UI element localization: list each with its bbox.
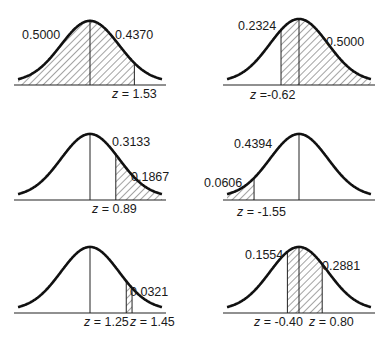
z-value-label: z = 0.80 — [308, 315, 354, 329]
normal-curve-panel-1: 0.50000.4370z = 1.53 — [14, 21, 166, 101]
z-value-label: z = -0.40 — [253, 315, 303, 329]
area-value-label: 0.3133 — [112, 135, 150, 149]
area-value-label: 0.4394 — [234, 137, 272, 151]
normal-curve-panel-5: 0.0321z = 1.25z = 1.45 — [14, 247, 175, 329]
normal-curve-panel-2: 0.23240.5000z =-0.62 — [223, 19, 375, 102]
area-value-label: 0.2881 — [322, 259, 360, 273]
normal-curve-panel-6: 0.15540.2881z = -0.40z = 0.80 — [223, 247, 375, 329]
area-value-label: 0.0321 — [130, 285, 168, 299]
z-value-label: z = 0.89 — [91, 202, 137, 216]
z-value-label: z = 1.53 — [111, 87, 157, 101]
area-value-label: 0.5000 — [326, 35, 364, 49]
area-value-label: 0.5000 — [22, 28, 60, 42]
normal-curve-panel-4: 0.43940.0606z = -1.55 — [204, 134, 375, 219]
normal-curve-figure: 0.50000.4370z = 1.530.23240.5000z =-0.62… — [0, 0, 386, 340]
area-value-label: 0.0606 — [204, 176, 242, 190]
normal-curve-panel-3: 0.31330.1867z = 0.89 — [14, 134, 169, 216]
z-value-label: z = 1.25 — [83, 315, 129, 329]
z-value-label: z = -1.55 — [236, 205, 286, 219]
z-value-label: z = 1.45 — [129, 315, 175, 329]
z-value-label: z =-0.62 — [249, 88, 296, 102]
area-value-label: 0.1867 — [131, 170, 169, 184]
area-value-label: 0.2324 — [238, 19, 276, 33]
area-value-label: 0.1554 — [245, 248, 283, 262]
area-value-label: 0.4370 — [115, 28, 153, 42]
